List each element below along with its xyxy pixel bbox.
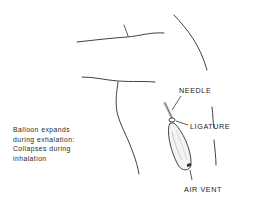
needle-icon xyxy=(164,102,172,118)
ligature-icon xyxy=(169,118,175,122)
ligature-pointer-line xyxy=(176,121,188,125)
needle-pointer-line xyxy=(172,96,181,110)
ligature-label: LIGATURE xyxy=(190,123,230,130)
chest-wall-line-lower-2 xyxy=(214,140,216,165)
air-vent-label: AIR VENT xyxy=(184,186,222,193)
air-vent-pointer-line xyxy=(190,170,192,180)
caption-line: Collapses during xyxy=(13,144,75,154)
caption: Balloon expands during exhalation: Colla… xyxy=(13,125,75,164)
torso-contour-line xyxy=(116,82,139,174)
caption-line: Balloon expands xyxy=(13,125,75,135)
anatomy-sketch xyxy=(0,0,253,201)
lower-contour-line xyxy=(82,77,155,82)
caption-line: during exhalation: xyxy=(13,135,75,145)
balloon-icon xyxy=(168,123,191,170)
needle-label: NEEDLE xyxy=(179,87,211,94)
chest-wall-line xyxy=(174,15,207,70)
upper-notch-line xyxy=(124,25,128,36)
upper-contour-line xyxy=(77,33,164,42)
chest-needle-balloon-diagram: NEEDLE LIGATURE AIR VENT Balloon expands… xyxy=(0,0,253,201)
caption-line: inhalation xyxy=(13,154,75,164)
